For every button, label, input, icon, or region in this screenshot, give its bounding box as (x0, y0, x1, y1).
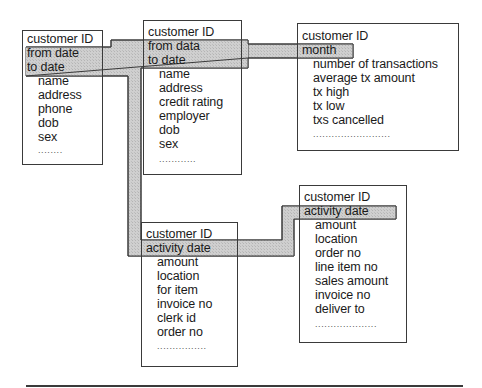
attr-name: name (38, 75, 69, 89)
entity-box-customer-2: customer ID from data to date name addre… (143, 20, 242, 175)
attr-location: location (315, 233, 357, 247)
entity-box-sales-order: customer ID activity date amount locatio… (299, 185, 407, 343)
attr-txs-cancelled: txs cancelled (313, 114, 384, 128)
key-month: month (302, 44, 336, 58)
attr-ellipsis: ............ (159, 154, 196, 164)
attr-invoice-no: invoice no (157, 298, 212, 312)
attr-invoice-no: invoice no (315, 289, 370, 303)
attr-sales-amount: sales amount (315, 275, 388, 289)
key-activity-date: activity date (304, 205, 369, 219)
attr-credit-rating: credit rating (159, 96, 223, 110)
attr-deliver-to: deliver to (315, 303, 365, 317)
attr-order-no: order no (157, 326, 203, 340)
attr-tx-high: tx high (313, 86, 349, 100)
attr-phone: phone (38, 103, 72, 117)
attr-ellipsis: ......................... (313, 129, 391, 139)
key-customer-id: customer ID (27, 33, 93, 47)
key-customer-id: customer ID (146, 228, 212, 242)
attr-line-item-no: line item no (315, 261, 378, 275)
attr-location: location (157, 270, 199, 284)
attr-sex: sex (159, 138, 178, 152)
attr-ellipsis: .................... (315, 319, 377, 329)
attr-order-no: order no (315, 247, 361, 261)
attr-for-item: for item (157, 284, 198, 298)
attr-address: address (159, 82, 203, 96)
attr-address: address (38, 89, 82, 103)
entity-box-transaction: customer ID activity date amount locatio… (141, 222, 238, 367)
attr-ellipsis: ................ (157, 341, 207, 351)
attr-average-tx-amount: average tx amount (313, 72, 415, 86)
attr-sex: sex (38, 131, 57, 145)
attr-ellipsis: ........ (38, 145, 63, 155)
key-from-date: from date (27, 47, 79, 61)
key-customer-id: customer ID (304, 191, 370, 205)
key-to-date: to date (148, 54, 186, 68)
key-to-date: to date (27, 61, 65, 75)
attr-tx-low: tx low (313, 100, 344, 114)
attr-dob: dob (38, 117, 59, 131)
attr-name: name (159, 68, 190, 82)
attr-number-of-transactions: number of transactions (313, 58, 438, 72)
key-customer-id: customer ID (148, 26, 214, 40)
attr-amount: amount (157, 256, 198, 270)
attr-clerk-id: clerk id (157, 312, 196, 326)
key-from-data: from data (148, 40, 200, 54)
key-customer-id: customer ID (302, 30, 368, 44)
attr-amount: amount (315, 219, 356, 233)
entity-box-customer-1: customer ID from date to date name addre… (22, 30, 103, 165)
key-activity-date: activity date (146, 242, 211, 256)
entity-box-monthly-summary: customer ID month number of transactions… (297, 23, 459, 151)
attr-employer: employer (159, 110, 210, 124)
attr-dob: dob (159, 124, 180, 138)
